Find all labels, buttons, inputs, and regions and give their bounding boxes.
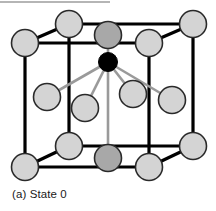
atom-mid-inner-right bbox=[120, 81, 147, 108]
atom-top-face-center bbox=[95, 22, 122, 49]
atom-right-face-center bbox=[159, 87, 186, 114]
crystal-lattice-diagram bbox=[0, 0, 216, 211]
atom-back-top-left bbox=[56, 11, 83, 38]
center-atom-group bbox=[99, 53, 118, 72]
atom-body-center bbox=[99, 53, 118, 72]
atom-mid-inner-left bbox=[72, 95, 99, 122]
atom-front-bottom-left bbox=[12, 154, 39, 181]
atom-front-top-right bbox=[136, 30, 163, 57]
atom-back-top-right bbox=[180, 11, 207, 38]
atom-front-top-left bbox=[12, 30, 39, 57]
atom-back-bottom-left bbox=[56, 133, 83, 160]
atom-left-face-center bbox=[34, 84, 61, 111]
figure-container: (a) State 0 bbox=[0, 0, 216, 211]
atom-back-bottom-right bbox=[180, 133, 207, 160]
atom-bottom-face-center bbox=[95, 145, 122, 172]
figure-caption: (a) State 0 bbox=[12, 188, 67, 201]
atom-front-bottom-right bbox=[136, 154, 163, 181]
